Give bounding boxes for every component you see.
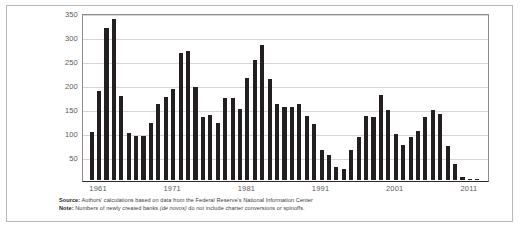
bar-1977 <box>216 123 220 180</box>
x-tick-label-2011: 2011 <box>460 184 477 193</box>
bar-1964 <box>119 96 123 180</box>
bar-1991 <box>320 150 324 180</box>
bar-2010 <box>460 177 464 180</box>
bar-1976 <box>208 115 212 180</box>
bar-1988 <box>297 104 301 180</box>
footnote-note-text-after: do not include charter conversions or sp… <box>187 205 305 211</box>
bar-1985 <box>275 104 279 180</box>
bar-1996 <box>357 137 361 180</box>
bar-1979 <box>231 98 235 180</box>
bar-1971 <box>171 89 175 180</box>
bar-1994 <box>342 169 346 180</box>
bar-2000 <box>386 110 390 180</box>
footnote-note: Note: Numbers of newly created banks (de… <box>59 204 502 212</box>
footnote-note-italic: (de novos) <box>160 205 187 211</box>
y-tick-label-350: 350 <box>65 10 78 19</box>
bar-1975 <box>201 117 205 180</box>
bar-series <box>84 16 487 180</box>
bar-1992 <box>327 155 331 180</box>
y-tick-label-100: 100 <box>65 130 78 139</box>
bar-1963 <box>112 19 116 180</box>
y-tick-label-200: 200 <box>65 82 78 91</box>
bar-1965 <box>127 133 131 180</box>
footnote-source-text: Authors' calculations based on data from… <box>80 197 313 203</box>
bar-1969 <box>156 104 160 180</box>
bar-2006 <box>431 110 435 180</box>
footnote-note-text-before: Numbers of newly created banks <box>74 205 160 211</box>
x-tick-label-1991: 1991 <box>312 184 330 193</box>
bar-1987 <box>290 107 294 180</box>
y-tick-label-50: 50 <box>69 154 78 163</box>
y-tick-label-300: 300 <box>65 34 78 43</box>
bar-1989 <box>305 116 309 180</box>
footnotes: Source: Authors' calculations based on d… <box>59 196 502 212</box>
bar-2001 <box>394 134 398 180</box>
bar-2002 <box>401 145 405 180</box>
bar-1999 <box>379 95 383 180</box>
bar-1974 <box>193 87 197 180</box>
bar-1981 <box>245 78 249 180</box>
bar-1978 <box>223 98 227 180</box>
bar-1986 <box>282 107 286 181</box>
bar-2012 <box>475 179 479 180</box>
x-tick-label-1981: 1981 <box>238 184 256 193</box>
bar-2003 <box>409 137 413 180</box>
bar-2008 <box>446 146 450 180</box>
footnote-note-lead: Note: <box>59 205 74 211</box>
bar-2005 <box>423 117 427 180</box>
bar-1967 <box>141 136 145 180</box>
footnote-source-lead: Source: <box>59 197 80 203</box>
bar-1997 <box>364 116 368 181</box>
bar-1970 <box>164 97 168 180</box>
plot-area <box>82 14 489 182</box>
bar-2011 <box>468 179 472 180</box>
bar-1980 <box>238 109 242 180</box>
footnote-source: Source: Authors' calculations based on d… <box>59 196 502 204</box>
x-tick-label-2001: 2001 <box>386 184 404 193</box>
bar-1998 <box>371 117 375 180</box>
bar-1960 <box>90 132 94 180</box>
bar-1995 <box>349 150 353 180</box>
bar-1984 <box>268 79 272 181</box>
bar-1993 <box>334 167 338 180</box>
x-tick-label-1971: 1971 <box>163 184 181 193</box>
bar-2004 <box>416 131 420 180</box>
x-axis-labels: 196119711981199120012011 <box>82 184 489 196</box>
bar-1968 <box>149 123 153 180</box>
bar-2007 <box>438 114 442 180</box>
y-tick-label-250: 250 <box>65 58 78 67</box>
y-tick-label-150: 150 <box>65 106 78 115</box>
y-axis-labels: 50100150200250300350 <box>53 14 78 182</box>
bar-1983 <box>260 45 264 180</box>
bar-1961 <box>97 91 101 180</box>
bar-1972 <box>179 53 183 180</box>
bar-1973 <box>186 51 190 180</box>
figure-panel: 50100150200250300350 1961197119811991200… <box>6 5 513 222</box>
bar-1966 <box>134 136 138 180</box>
bar-1982 <box>253 60 257 180</box>
bar-2009 <box>453 164 457 180</box>
plot-wrapper <box>82 14 489 182</box>
x-tick-label-1961: 1961 <box>89 184 107 193</box>
bar-1990 <box>312 124 316 180</box>
bar-1962 <box>104 28 108 180</box>
